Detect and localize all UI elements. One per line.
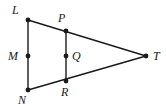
vertex-point-l <box>26 18 31 23</box>
vertex-label-p: P <box>58 12 65 24</box>
vertex-label-r: R <box>61 86 68 98</box>
vertex-point-t <box>144 54 149 59</box>
segment-layer <box>28 20 146 90</box>
vertex-label-q: Q <box>72 50 81 62</box>
vertex-label-n: N <box>18 94 26 106</box>
vertex-label-m: M <box>8 50 18 62</box>
vertex-label-l: L <box>12 4 19 16</box>
vertex-point-m <box>26 54 31 59</box>
vertex-point-n <box>26 88 31 93</box>
vertex-point-p <box>64 29 69 34</box>
vertex-point-q <box>64 54 69 59</box>
segment-nt <box>28 56 146 90</box>
segment-lt <box>28 20 146 56</box>
vertex-point-r <box>64 79 69 84</box>
point-layer <box>26 18 149 93</box>
geometry-figure: LPTMQNR <box>0 0 166 109</box>
vertex-label-t: T <box>153 50 160 62</box>
